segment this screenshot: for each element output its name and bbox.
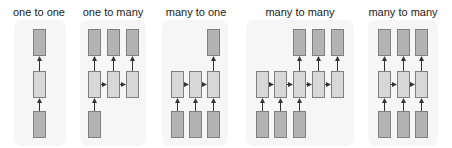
hidden-state-box (332, 72, 344, 98)
output-box (332, 30, 344, 56)
hidden-state-box (294, 72, 306, 98)
output-box (398, 30, 410, 56)
input-box (190, 112, 202, 138)
input-box (275, 112, 287, 138)
input-box (416, 112, 428, 138)
output-box (379, 30, 391, 56)
output-box (313, 30, 325, 56)
hidden-state-box (108, 72, 120, 98)
hidden-state-box (275, 72, 287, 98)
output-box (208, 30, 220, 56)
output-box (108, 30, 120, 56)
hidden-state-box (379, 72, 391, 98)
input-box (208, 112, 220, 138)
hidden-state-box (416, 72, 428, 98)
input-box (398, 112, 410, 138)
hidden-state-box (313, 72, 325, 98)
output-box (127, 30, 139, 56)
hidden-state-box (34, 72, 46, 98)
input-box (89, 112, 101, 138)
hidden-state-box (127, 72, 139, 98)
output-box (294, 30, 306, 56)
hidden-state-box (172, 72, 184, 98)
input-box (172, 112, 184, 138)
hidden-state-box (257, 72, 269, 98)
hidden-state-box (208, 72, 220, 98)
output-box (416, 30, 428, 56)
output-box (89, 30, 101, 56)
input-box (34, 112, 46, 138)
hidden-state-box (190, 72, 202, 98)
input-box (294, 112, 306, 138)
hidden-state-box (89, 72, 101, 98)
input-box (257, 112, 269, 138)
hidden-state-box (398, 72, 410, 98)
input-box (379, 112, 391, 138)
output-box (34, 30, 46, 56)
rnn-architectures-diagram (0, 0, 452, 148)
